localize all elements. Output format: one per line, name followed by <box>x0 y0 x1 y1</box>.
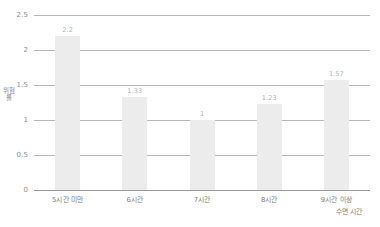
x-axis-tick-label: 9시간 이상 <box>303 194 370 204</box>
x-axis-title: 수면 시간 <box>34 206 370 216</box>
y-axis-tick-label: 0.5 <box>0 151 28 159</box>
bar-slot: 1.33 <box>101 15 168 190</box>
y-axis-title: 위험률 <box>3 88 15 102</box>
bar <box>324 80 349 190</box>
bar <box>55 36 80 190</box>
bar-value-label: 2.2 <box>48 26 88 34</box>
bars-group: 2.21.3311.231.57 <box>34 15 370 190</box>
y-axis-tick-label: 0 <box>0 186 28 194</box>
bar-value-label: 1.33 <box>115 87 155 95</box>
gridline <box>34 190 370 191</box>
x-axis-tick-label: 5시간 미만 <box>34 194 101 204</box>
x-axis-tick-label: 8시간 <box>236 194 303 204</box>
x-axis-tick-label: 7시간 <box>168 194 235 204</box>
plot-area: 00.511.522.5 2.21.3311.231.57 <box>34 15 370 190</box>
bar-value-label: 1.23 <box>249 94 289 102</box>
y-axis-tick-label: 1.5 <box>0 81 28 89</box>
bar-slot: 1 <box>168 15 235 190</box>
bar-slot: 1.57 <box>303 15 370 190</box>
x-axis-tick-labels: 5시간 미만6시간7시간8시간9시간 이상 <box>34 194 370 204</box>
bar-slot: 2.2 <box>34 15 101 190</box>
bar-value-label: 1 <box>182 110 222 118</box>
y-axis-tick-label: 1 <box>0 116 28 124</box>
bar-chart: 위험률 00.511.522.5 2.21.3311.231.57 5시간 미만… <box>0 0 380 227</box>
bar <box>257 104 282 190</box>
bar <box>122 97 147 190</box>
y-axis-tick-label: 2.5 <box>0 11 28 19</box>
y-axis-tick-label: 2 <box>0 46 28 54</box>
bar-slot: 1.23 <box>236 15 303 190</box>
bar-value-label: 1.57 <box>316 70 356 78</box>
x-axis-tick-label: 6시간 <box>101 194 168 204</box>
bar <box>190 120 215 190</box>
